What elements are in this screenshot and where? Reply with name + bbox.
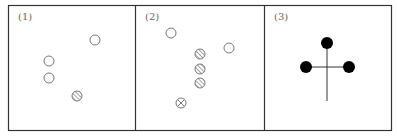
solid-dot bbox=[321, 37, 333, 49]
open-circle bbox=[224, 43, 234, 53]
hatched-circle bbox=[195, 49, 205, 59]
open-circle bbox=[44, 73, 54, 83]
solid-dot bbox=[300, 61, 312, 73]
solid-dot bbox=[343, 61, 355, 73]
panel-3-label: (3) bbox=[274, 11, 288, 22]
panel-1-label: (1) bbox=[18, 11, 32, 22]
hatched-circle bbox=[195, 78, 205, 88]
hatched-circle bbox=[195, 64, 205, 74]
hatched-circle bbox=[72, 91, 82, 101]
open-circle bbox=[90, 35, 100, 45]
open-circle bbox=[44, 56, 54, 66]
open-circle bbox=[166, 28, 176, 38]
panel-2-label: (2) bbox=[145, 11, 159, 22]
diagram-figure: (1) (2) (3) bbox=[0, 0, 398, 138]
